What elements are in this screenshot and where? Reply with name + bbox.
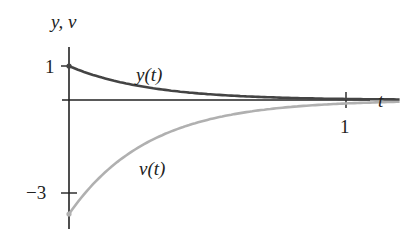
y-start-marker — [66, 63, 71, 68]
x-tick-label-1: 1 — [340, 116, 350, 137]
y-axis-label: y, v — [49, 11, 77, 32]
y-tick-label-1: 1 — [45, 56, 55, 77]
v-curve — [69, 102, 400, 214]
v-start-marker — [66, 211, 71, 216]
curve-label-y: y(t) — [134, 64, 162, 86]
y-curve — [69, 66, 400, 100]
y-tick-label-neg3: −3 — [26, 182, 46, 203]
curve-label-v: v(t) — [139, 158, 165, 180]
x-axis-label: t — [378, 90, 384, 111]
chart: y, v t 1 −3 1 y(t) v(t) — [0, 0, 407, 245]
